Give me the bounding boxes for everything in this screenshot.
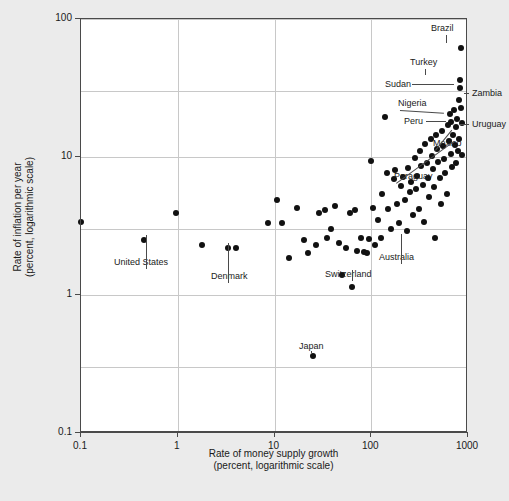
data-point bbox=[370, 205, 376, 211]
annotation-leader-united-states bbox=[146, 235, 147, 269]
scatter-chart-figure: 1001010.1 0.11101001000 Rate of inflatio… bbox=[0, 0, 509, 501]
data-point bbox=[313, 242, 319, 248]
data-point bbox=[78, 219, 84, 225]
annotation-label-australia: Australia bbox=[379, 253, 414, 262]
annotation-leader-zambia bbox=[464, 93, 469, 94]
data-point bbox=[332, 203, 338, 209]
annotation-label-denmark: Denmark bbox=[211, 272, 248, 281]
gridline-horizontal bbox=[81, 19, 466, 20]
data-point bbox=[324, 235, 330, 241]
data-point bbox=[431, 184, 437, 190]
data-point bbox=[379, 191, 385, 197]
data-point bbox=[412, 155, 418, 161]
data-point bbox=[199, 242, 205, 248]
data-point-mexico bbox=[453, 124, 459, 130]
y-tick-label: 10 bbox=[40, 151, 72, 161]
gridline-horizontal-minor bbox=[81, 91, 466, 92]
annotation-label-zambia: Zambia bbox=[472, 89, 502, 98]
data-point bbox=[438, 201, 444, 207]
y-axis-title-line2: (percent, logarithmic scale) bbox=[24, 97, 36, 337]
annotation-label-turkey: Turkey bbox=[410, 58, 437, 67]
annotation-leader-japan bbox=[311, 351, 312, 353]
data-point bbox=[439, 128, 445, 134]
data-point bbox=[442, 170, 448, 176]
data-point bbox=[394, 201, 400, 207]
gridline-vertical bbox=[178, 19, 179, 431]
x-tick-mark bbox=[177, 432, 178, 437]
annotation-leader-switzerland bbox=[352, 270, 353, 281]
data-point bbox=[453, 160, 459, 166]
y-tick-label: 0.1 bbox=[40, 427, 72, 437]
x-tick-mark bbox=[80, 432, 81, 437]
annotation-leader-denmark bbox=[228, 243, 229, 283]
data-point bbox=[398, 183, 404, 189]
data-point bbox=[336, 240, 342, 246]
annotation-leader-sudan bbox=[412, 84, 455, 85]
data-point bbox=[433, 132, 439, 138]
data-point bbox=[274, 197, 280, 203]
annotation-leader-australia bbox=[401, 234, 402, 264]
y-tick-mark bbox=[75, 294, 80, 295]
data-point bbox=[343, 245, 349, 251]
annotation-leader-brazil bbox=[446, 35, 447, 43]
data-point bbox=[368, 158, 374, 164]
data-point-australia bbox=[366, 236, 372, 242]
data-point bbox=[457, 85, 463, 91]
annotation-label-nigeria: Nigeria bbox=[398, 99, 427, 108]
data-point bbox=[410, 212, 416, 218]
y-tick-mark bbox=[75, 18, 80, 19]
data-point bbox=[432, 235, 438, 241]
data-point bbox=[349, 284, 355, 290]
y-tick-label: 1 bbox=[40, 289, 72, 299]
data-point-denmark bbox=[233, 245, 239, 251]
data-point-zambia bbox=[458, 105, 464, 111]
x-axis-title-line1: Rate of money supply growth bbox=[80, 448, 467, 460]
data-point bbox=[322, 207, 328, 213]
data-point bbox=[404, 228, 410, 234]
data-point bbox=[375, 217, 381, 223]
gridline-horizontal bbox=[81, 295, 466, 296]
data-point bbox=[294, 205, 300, 211]
gridline-vertical bbox=[371, 19, 372, 431]
y-axis-line bbox=[80, 18, 81, 433]
annotation-leader-uruguay bbox=[460, 124, 469, 125]
data-point bbox=[279, 220, 285, 226]
annotation-label-peru: Peru bbox=[404, 117, 423, 126]
data-point bbox=[265, 220, 271, 226]
y-axis-title-line1: Rate of inflation per year bbox=[12, 97, 24, 337]
x-tick-mark bbox=[370, 432, 371, 437]
data-point-japan bbox=[310, 353, 316, 359]
x-axis-title: Rate of money supply growth (percent, lo… bbox=[80, 448, 467, 472]
y-tick-mark bbox=[75, 156, 80, 157]
data-point bbox=[451, 107, 457, 113]
annotation-label-switzerland: Switzerland bbox=[325, 270, 372, 279]
data-point bbox=[413, 186, 419, 192]
data-point bbox=[372, 242, 378, 248]
y-axis-title: Rate of inflation per year (percent, log… bbox=[12, 97, 36, 337]
data-point bbox=[301, 237, 307, 243]
data-point bbox=[385, 206, 391, 212]
data-point bbox=[352, 207, 358, 213]
data-point bbox=[407, 189, 413, 195]
data-point bbox=[378, 235, 384, 241]
data-point bbox=[382, 114, 388, 120]
data-point bbox=[444, 191, 450, 197]
annotation-label-uruguay: Uruguay bbox=[472, 120, 506, 129]
data-point-turkey bbox=[457, 77, 463, 83]
data-point bbox=[396, 220, 402, 226]
data-point bbox=[358, 235, 364, 241]
data-point bbox=[364, 250, 370, 256]
data-point-brazil bbox=[458, 45, 464, 51]
annotation-leader-turkey bbox=[425, 69, 426, 75]
gridline-vertical bbox=[275, 19, 276, 431]
data-point bbox=[422, 141, 428, 147]
gridline-horizontal-minor bbox=[81, 367, 466, 368]
x-tick-mark bbox=[274, 432, 275, 437]
data-point bbox=[448, 151, 454, 157]
data-point bbox=[450, 132, 456, 138]
y-tick-label: 100 bbox=[40, 13, 72, 23]
data-point bbox=[354, 248, 360, 254]
annotation-label-sudan: Sudan bbox=[385, 80, 411, 89]
annotation-label-japan: Japan bbox=[299, 342, 324, 351]
annotation-leader-peru bbox=[426, 121, 447, 122]
